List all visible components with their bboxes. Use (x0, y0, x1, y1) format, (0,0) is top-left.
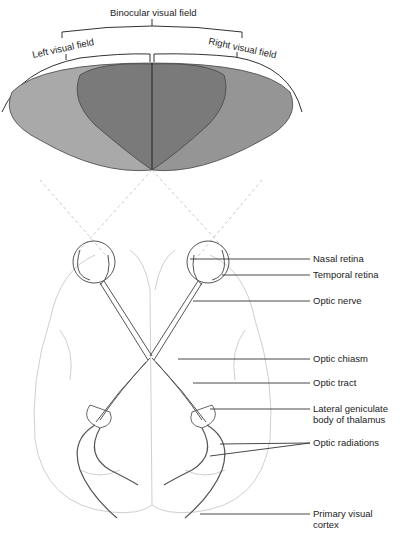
leader-lines (178, 259, 310, 514)
label-optic-tract: Optic tract (313, 377, 356, 388)
visual-field (9, 63, 293, 171)
binocular-bracket (62, 19, 242, 38)
left-eye (73, 241, 115, 285)
label-optic-radiations: Optic radiations (313, 437, 379, 448)
figure-caption-cropped (2, 530, 152, 536)
left-field-label: Left visual field (31, 36, 95, 60)
binocular-field-label: Binocular visual field (110, 7, 197, 18)
label-optic-chiasm: Optic chiasm (313, 353, 368, 364)
label-nasal-retina: Nasal retina (313, 253, 364, 264)
label-temporal-retina: Temporal retina (313, 269, 378, 280)
projection-rays (40, 170, 262, 260)
label-lateral-geniculate: Lateral geniculate body of thalamus (313, 403, 401, 425)
brain-outline (34, 250, 271, 513)
right-eye (187, 241, 229, 285)
label-primary-visual-cortex: Primary visual cortex (313, 508, 383, 530)
visual-pathway-diagram: Binocular visual field Left visual field… (0, 0, 401, 541)
label-optic-nerve: Optic nerve (313, 295, 362, 306)
right-field-label: Right visual field (208, 35, 278, 60)
